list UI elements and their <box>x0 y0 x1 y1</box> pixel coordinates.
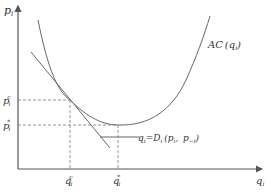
average-cost-diagram: pi qi AC (qi) qi=Di (pi, p−i) pic pi* qi… <box>0 0 271 196</box>
demand-curve <box>31 52 110 148</box>
q-star-label: qi* <box>113 173 120 187</box>
p-c-label: pic <box>3 93 11 107</box>
y-axis-label: pi <box>4 4 13 18</box>
q-c-label: qic <box>65 173 73 187</box>
average-cost-curve <box>38 16 210 125</box>
ac-curve-label: AC (qi) <box>207 39 241 51</box>
x-axis-label: qi <box>256 175 264 187</box>
demand-function-label: qi=Di (pi, p−i) <box>138 133 200 144</box>
p-star-label: pi* <box>3 118 10 132</box>
